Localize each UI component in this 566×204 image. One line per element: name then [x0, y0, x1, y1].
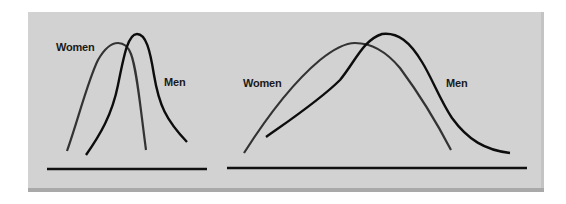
- right-men-label: Men: [446, 77, 467, 89]
- right-women-label: Women: [243, 77, 282, 89]
- left-women-curve: [67, 43, 146, 151]
- left-men-label: Men: [164, 76, 185, 88]
- right-chart: [227, 34, 527, 168]
- left-chart: [47, 34, 207, 169]
- distribution-figure: [0, 0, 566, 204]
- left-men-curve: [86, 34, 187, 155]
- right-men-curve: [266, 34, 510, 153]
- left-women-label: Women: [56, 41, 95, 53]
